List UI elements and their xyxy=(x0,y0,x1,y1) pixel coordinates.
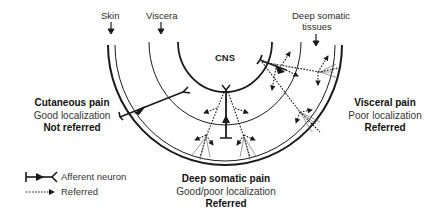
deep-somatic-pain-title: Deep somatic pain xyxy=(175,173,277,186)
deep-somatic-pain-referral: Referred xyxy=(175,198,277,211)
skin-arc xyxy=(108,45,349,166)
legend-afferent-neuron-label: Afferent neuron xyxy=(61,171,126,182)
visceral-pain-title: Visceral pain xyxy=(345,97,425,110)
cutaneous-pain-title: Cutaneous pain xyxy=(22,97,122,110)
skin-label: Skin xyxy=(101,10,119,21)
visceral-pain-localization: Poor localization xyxy=(345,110,425,123)
deep-somatic-label-line2: tissues xyxy=(292,21,342,32)
cutaneous-pain-referral: Not referred xyxy=(22,122,122,135)
viscera-label: Viscera xyxy=(146,10,178,21)
deep-somatic-afferent-neuron xyxy=(220,85,232,138)
deep-somatic-fine-endings xyxy=(192,137,256,160)
down-arrow-icons xyxy=(108,22,319,46)
legend-referred-label: Referred xyxy=(61,186,98,197)
visceral-pain-referral: Referred xyxy=(345,122,425,135)
cns-label: CNS xyxy=(215,52,235,63)
visceral-referred-paths xyxy=(262,52,338,132)
cns-arc xyxy=(178,42,272,92)
deep-somatic-pain-block: Deep somatic pain Good/poor localization… xyxy=(175,173,277,211)
deep-somatic-label-line1: Deep somatic xyxy=(292,10,342,21)
visceral-pain-block: Visceral pain Poor localization Referred xyxy=(345,97,425,135)
referred-legend-icon xyxy=(26,189,55,195)
cutaneous-pain-block: Cutaneous pain Good localization Not ref… xyxy=(22,97,122,135)
deep-somatic-pain-localization: Good/poor localization xyxy=(175,186,277,199)
deep-somatic-tissues-label: Deep somatic tissues xyxy=(292,10,342,32)
cutaneous-pain-localization: Good localization xyxy=(22,110,122,123)
afferent-neuron-legend-icon xyxy=(26,172,57,182)
visceral-fine-endings xyxy=(300,64,338,132)
